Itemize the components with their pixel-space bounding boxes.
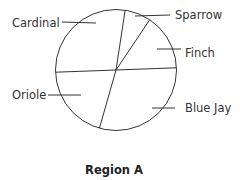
- pie-chart: Sparrow Finch Blue Jay Oriole Cardinal R…: [0, 0, 240, 180]
- chart-title: Region A: [85, 163, 143, 177]
- label-blue-jay: Blue Jay: [185, 101, 232, 115]
- label-cardinal: Cardinal: [12, 16, 60, 30]
- label-finch: Finch: [185, 46, 215, 60]
- label-oriole: Oriole: [12, 88, 46, 102]
- label-sparrow: Sparrow: [175, 8, 222, 22]
